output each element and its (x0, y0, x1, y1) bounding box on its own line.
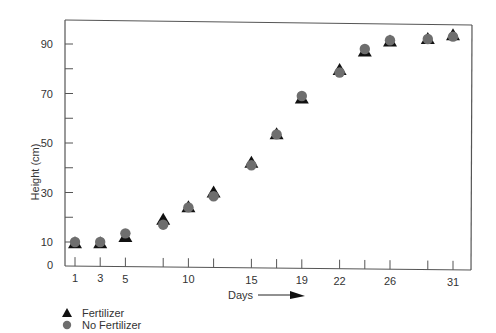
x-tick-label: 10 (182, 273, 194, 285)
x-tick-label: 1 (72, 272, 78, 284)
y-axis-ticks: 01030507090 (41, 38, 73, 271)
no-fertilizer-point (385, 35, 395, 45)
legend-label: No Fertilizer (82, 319, 142, 331)
no-fertilizer-point (360, 44, 370, 54)
legend-label: Fertilizer (82, 307, 125, 319)
no-fertilizer-point (246, 160, 256, 170)
x-axis-title-text: Days (228, 289, 254, 301)
no-fertilizer-point (297, 91, 307, 101)
x-tick-label: 5 (122, 273, 128, 285)
no-fertilizer-point (271, 129, 281, 139)
no-fertilizer-point (70, 237, 80, 247)
no-fertilizer-point (334, 67, 344, 77)
x-tick-label: 26 (384, 275, 396, 287)
right-arrow-icon (258, 291, 305, 299)
no-fertilizer-point (158, 219, 168, 229)
y-axis-title: Height (cm) (29, 144, 41, 201)
circle-marker-icon (63, 321, 71, 329)
no-fertilizer-point (423, 34, 433, 44)
no-fertilizer-point (183, 202, 193, 212)
no-fertilizer-point (95, 237, 105, 247)
no-fertilizer-point (448, 31, 458, 41)
y-tick-label: 90 (41, 38, 53, 50)
x-axis-title: Days (228, 289, 305, 301)
x-tick-label: 22 (333, 275, 345, 287)
legend-item-fertilizer: Fertilizer (62, 307, 125, 319)
legend: Fertilizer No Fertilizer (62, 307, 142, 331)
no-fertilizer-point (120, 228, 130, 238)
x-tick-label: 15 (245, 274, 257, 286)
x-tick-label: 31 (447, 276, 459, 288)
scatter-chart: 01030507090 135101519222631 Height (cm) … (0, 0, 496, 333)
triangle-marker-icon (62, 308, 72, 317)
y-tick-label: 10 (41, 236, 53, 248)
legend-item-no-fertilizer: No Fertilizer (63, 319, 142, 331)
x-tick-label: 19 (296, 274, 308, 286)
data-points (68, 28, 460, 248)
no-fertilizer-point (208, 191, 218, 201)
y-tick-label: 50 (41, 137, 53, 149)
y-tick-label: 70 (41, 88, 53, 100)
top-border (65, 20, 472, 25)
x-tick-label: 3 (97, 272, 103, 284)
x-axis-line (65, 266, 471, 270)
y-tick-label: 0 (47, 259, 53, 271)
y-tick-label: 30 (41, 187, 53, 199)
right-border (471, 25, 472, 270)
x-axis-ticks: 135101519222631 (72, 257, 459, 288)
